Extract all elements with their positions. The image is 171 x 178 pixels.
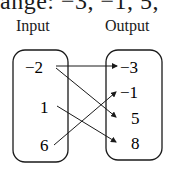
output-value: 5 [131, 109, 140, 128]
input-value: −2 [25, 58, 43, 77]
output-value: 8 [131, 134, 140, 153]
output-value: −1 [120, 83, 138, 102]
input-value: 6 [40, 136, 49, 155]
output-value: −3 [120, 58, 138, 77]
arrow-1-to-8 [57, 106, 116, 142]
input-value: 1 [40, 98, 49, 117]
arrow-neg2-to-5 [56, 68, 116, 117]
arrow-6-to-neg1 [54, 92, 116, 145]
mapping-diagram: −2 1 6 −3 −1 5 8 [0, 0, 171, 178]
